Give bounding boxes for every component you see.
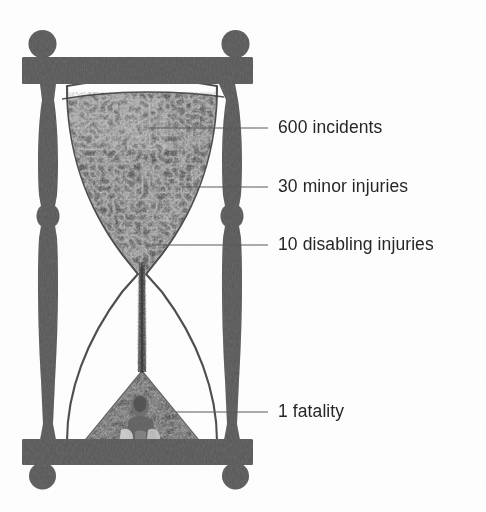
callout-label-minor-injuries: 30 minor injuries (278, 178, 408, 196)
right-column (219, 84, 244, 440)
top-finial-left (29, 30, 57, 58)
top-finial-right (222, 30, 250, 58)
bottom-cross-rail (22, 439, 253, 465)
top-cross-rail (22, 57, 253, 84)
illustration-canvas: 600 incidents30 minor injuries10 disabli… (0, 0, 486, 512)
hourglass-illustration (0, 0, 486, 512)
left-column (37, 84, 60, 440)
bottom-foot-left (29, 463, 56, 490)
callout-label-disabling-injuries: 10 disabling injuries (278, 236, 434, 254)
upper-bulb-sand (58, 92, 228, 292)
lower-bulb-sand-cone (78, 366, 206, 448)
callout-label-incidents: 600 incidents (278, 119, 382, 137)
bottom-foot-right (222, 463, 249, 490)
callout-label-fatality: 1 fatality (278, 403, 344, 421)
